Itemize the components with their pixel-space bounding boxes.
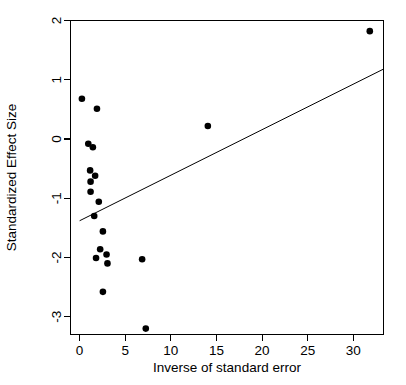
data-point bbox=[100, 228, 107, 235]
data-point bbox=[367, 28, 374, 35]
data-point bbox=[205, 123, 212, 130]
x-tick-label: 30 bbox=[346, 343, 361, 358]
x-tick-label: 0 bbox=[76, 343, 84, 358]
data-point bbox=[79, 95, 86, 102]
y-tick-label: -3 bbox=[49, 311, 64, 323]
data-point bbox=[142, 325, 149, 332]
data-point bbox=[91, 213, 98, 220]
x-tick-label: 25 bbox=[300, 343, 315, 358]
data-point bbox=[97, 246, 104, 253]
data-point bbox=[103, 251, 110, 258]
data-point bbox=[92, 172, 99, 179]
data-point bbox=[87, 167, 94, 174]
x-axis-title: Inverse of standard error bbox=[153, 360, 301, 375]
funnel-plot-figure: 051015202530210-1-2-3Inverse of standard… bbox=[0, 0, 406, 385]
data-point bbox=[93, 255, 100, 262]
x-tick-label: 10 bbox=[163, 343, 178, 358]
data-point bbox=[87, 188, 94, 195]
data-point bbox=[87, 178, 94, 185]
x-tick-label: 20 bbox=[255, 343, 270, 358]
data-point bbox=[100, 289, 107, 296]
y-tick-label: 1 bbox=[49, 76, 64, 84]
data-point bbox=[95, 198, 102, 205]
data-point bbox=[90, 144, 97, 151]
x-tick-label: 15 bbox=[209, 343, 224, 358]
data-point bbox=[104, 260, 111, 267]
y-tick-label: 0 bbox=[49, 135, 64, 143]
regression-line bbox=[80, 69, 384, 221]
scatter-plot-canvas: 051015202530210-1-2-3Inverse of standard… bbox=[0, 0, 406, 385]
y-tick-label: -1 bbox=[49, 192, 64, 204]
y-axis-title: Standardized Effect Size bbox=[4, 104, 19, 252]
data-point bbox=[139, 256, 146, 263]
plot-frame bbox=[71, 21, 384, 335]
y-tick-label: -2 bbox=[49, 251, 64, 263]
y-tick-label: 2 bbox=[49, 17, 64, 25]
data-point bbox=[94, 105, 101, 112]
x-tick-label: 5 bbox=[121, 343, 129, 358]
